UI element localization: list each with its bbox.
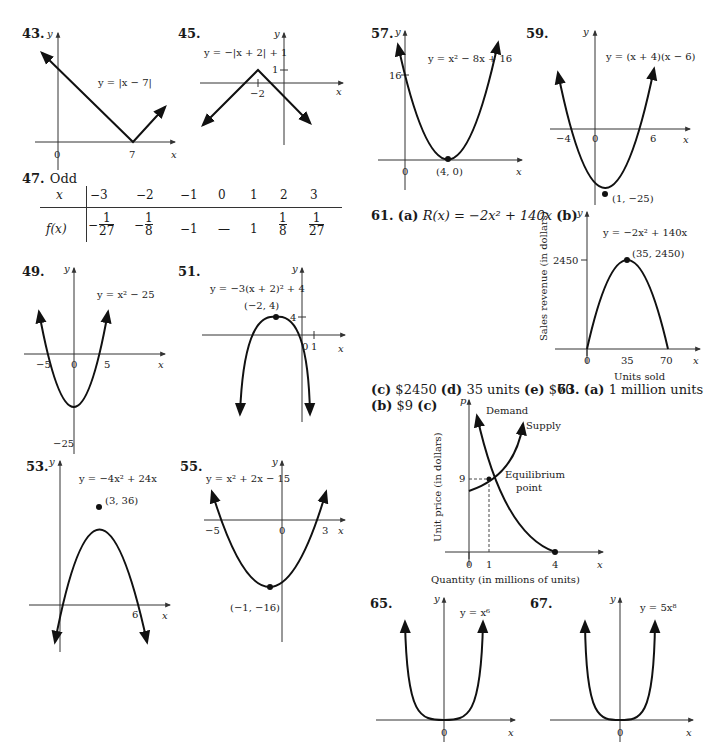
tick-label: 0	[402, 166, 408, 177]
tick-label: 1	[272, 64, 278, 75]
table-cell-fx: −18	[134, 212, 153, 237]
y-axis-title: Sales revenue (in dollars)	[538, 211, 549, 341]
equation-label: y = −4x² + 24x	[78, 473, 157, 484]
part-label: (a)	[398, 208, 419, 223]
answer-text: R(x) = −2x² + 140x	[423, 208, 552, 223]
equation-label: y = −2x² + 140x	[602, 227, 688, 238]
table-divider	[86, 186, 87, 242]
problem-47-answer: 47. Odd	[22, 168, 77, 187]
tick-label: 0	[617, 727, 623, 738]
tick-label: 0	[466, 559, 472, 570]
vertex-label: (35, 2450)	[632, 248, 684, 259]
equation-label: y = 5x⁸	[639, 602, 676, 613]
equation-label: y = |x − 7|	[97, 77, 152, 89]
problem-number-59: 59.	[526, 26, 549, 41]
vertex-label: (3, 36)	[105, 495, 138, 506]
tick-label: −5	[205, 525, 220, 536]
tick-label: 0	[584, 355, 590, 366]
tick-label: −2	[250, 88, 265, 99]
tick-label: 0	[54, 149, 60, 160]
tick-label: 70	[660, 355, 673, 366]
table-cell-x: 3	[310, 188, 318, 202]
equation-label: y = x⁶	[459, 607, 490, 618]
table-cell-x: 1	[250, 188, 258, 202]
y-axis-label: y	[609, 593, 616, 604]
equation-label: y = −3(x + 2)² + 4	[209, 283, 305, 294]
table-cell-x: 0	[218, 188, 226, 202]
tick-label: 4	[290, 312, 296, 323]
row-header-fx: f(x)	[46, 222, 67, 236]
x-axis-title: Quantity (in millions of units)	[431, 574, 580, 585]
graph-65: y x 0 y = x⁶	[370, 592, 530, 747]
table-cell-x: −1	[180, 188, 198, 202]
graph-55: y x −5 0 3 (−1, −16) y = x² + 2x − 15	[200, 457, 350, 657]
table-cell-x: 2	[280, 188, 288, 202]
tick-label: −5	[36, 359, 51, 370]
tick-label: 35	[621, 355, 634, 366]
graph-59: y x −4 0 6 (1, −25) y = (x + 4)(x − 6)	[550, 25, 700, 205]
supply-label: Supply	[526, 420, 561, 431]
graph-43: y x 0 7 y = |x − 7|	[30, 25, 210, 175]
equation-label: y = (x + 4)(x − 6)	[605, 51, 696, 62]
y-axis-title: Unit price (in dollars)	[432, 432, 443, 542]
vertex-label: (−1, −16)	[230, 602, 280, 613]
x-axis-label: x	[683, 134, 689, 145]
x-axis-label: x	[693, 355, 699, 366]
x-axis-title: Units sold	[614, 371, 666, 382]
tick-label: −25	[53, 438, 74, 449]
y-axis-label: y	[576, 207, 583, 218]
tick-label: 1	[311, 341, 317, 352]
equation-label: y = x² + 2x − 15	[205, 473, 290, 484]
graph-63-supply-demand: p x 9 0 1 4 Demand Supply Equilibrium po…	[425, 394, 625, 584]
y-axis-label: y	[48, 456, 55, 467]
tick-label: 2450	[553, 255, 578, 266]
equation-label: y = −|x + 2| + 1	[203, 47, 287, 59]
equilibrium-label: point	[516, 482, 542, 493]
tick-label: 0	[441, 727, 447, 738]
row-header-x: x	[56, 188, 63, 202]
x-axis-label: x	[158, 359, 164, 370]
equilibrium-label: Equilibrium	[505, 469, 566, 480]
table-cell-fx: −127	[88, 212, 114, 237]
tick-label: 7	[129, 149, 135, 160]
tick-label: 4	[552, 559, 558, 570]
tick-label: 0	[279, 525, 285, 536]
vertex-label: (4, 0)	[436, 166, 463, 177]
tick-label: 0	[302, 341, 308, 352]
y-axis-label: y	[291, 263, 298, 274]
equation-label: y = x² − 25	[96, 289, 155, 300]
y-axis-label: y	[271, 456, 278, 467]
demand-label: Demand	[486, 405, 529, 416]
graph-61-revenue: y x 2450 0 35 70 (35, 2450) y = −2x² + 1…	[535, 206, 705, 381]
graph-67: y x 0 y = 5x⁸	[548, 592, 708, 747]
x-axis-label: x	[338, 525, 344, 536]
tick-label: 6	[132, 609, 138, 620]
vertex-label: (−2, 4)	[244, 300, 279, 311]
tick-label: 6	[650, 133, 656, 144]
vertex-label: (1, −25)	[612, 193, 654, 204]
x-axis-label: x	[597, 559, 603, 570]
x-axis-label: x	[516, 166, 522, 177]
tick-label: 3	[322, 525, 328, 536]
answer-text: Odd	[50, 171, 77, 186]
y-axis-label: y	[63, 263, 70, 274]
problem-number-47: 47.	[22, 171, 45, 186]
y-axis-label: y	[46, 28, 53, 39]
table-cell-fx: —	[218, 222, 230, 236]
x-axis-label: x	[508, 727, 514, 738]
tick-label: −4	[556, 133, 571, 144]
x-axis-label: x	[686, 727, 692, 738]
table-cell-fx: −1	[180, 222, 198, 236]
tick-label: 5	[104, 359, 110, 370]
problem-number-51: 51.	[178, 264, 201, 279]
y-axis-label: y	[394, 26, 401, 37]
x-axis-label: x	[162, 610, 168, 621]
answer-text: $9	[397, 398, 414, 413]
y-axis-label: y	[433, 593, 440, 604]
tick-label: 0	[71, 359, 77, 370]
graph-49: y x −5 0 5 −25 y = x² − 25	[20, 262, 170, 462]
graph-51: y x 4 0 1 (−2, 4) y = −3(x + 2)² + 4	[200, 262, 350, 432]
x-axis-label: x	[171, 149, 177, 160]
tick-label: 9	[459, 473, 465, 484]
graph-53: y x 6 (3, 36) y = −4x² + 24x	[25, 457, 175, 657]
